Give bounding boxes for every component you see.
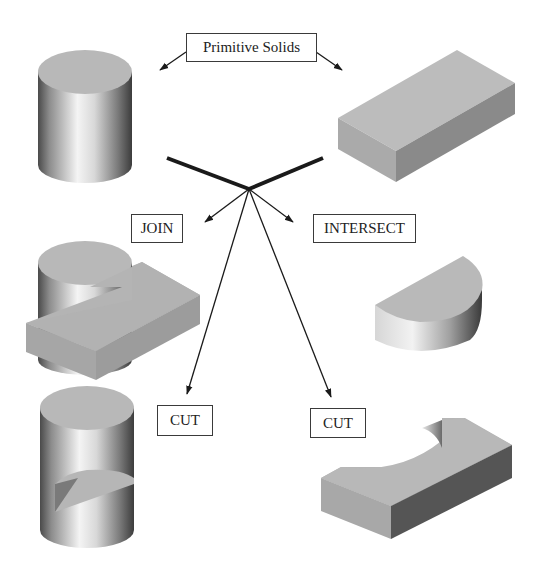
cut-label-right: CUT: [310, 408, 366, 438]
intersect-label: INTERSECT: [313, 214, 416, 243]
intersect-result-solid: [375, 256, 483, 351]
combine-lines: [167, 158, 323, 189]
cut-cylinder-result: [40, 386, 134, 548]
cut-label-left: CUT: [157, 405, 213, 436]
primitive-solids-label: Primitive Solids: [186, 33, 317, 62]
join-result-solid: [26, 241, 200, 380]
primitive-cylinder: [38, 50, 132, 183]
csg-diagram: [0, 0, 545, 578]
join-label: JOIN: [131, 214, 183, 243]
primitive-block: [338, 50, 515, 182]
